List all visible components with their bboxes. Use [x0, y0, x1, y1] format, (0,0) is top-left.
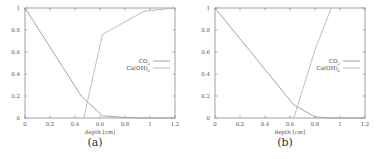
x-tick-label: 0.8	[311, 121, 320, 127]
x-tick-label: 0.6	[286, 121, 295, 127]
y-tick-label: 0	[207, 115, 211, 121]
chart-panel-b: 00.20.40.60.8100.20.40.60.811.2depth [cm…	[190, 0, 380, 159]
x-tick-label: 0.6	[96, 121, 105, 127]
y-tick-label: 0.6	[11, 49, 20, 55]
y-tick-label: 0.8	[201, 27, 210, 33]
y-tick-label: 1	[207, 5, 211, 11]
caption-b: (b)	[190, 136, 380, 149]
y-tick-label: 0.4	[11, 71, 20, 77]
legend-label: Ca(OH)2	[316, 65, 340, 73]
y-tick-label: 0.2	[201, 93, 210, 99]
caption-a: (a)	[0, 136, 190, 149]
x-axis-label: depth [cm]	[275, 129, 305, 136]
chart-panel-a: 00.20.40.60.8100.20.40.60.811.2depth [cm…	[0, 0, 190, 159]
series-line-co2	[25, 8, 175, 118]
y-tick-label: 0	[17, 115, 21, 121]
legend-label: Ca(OH)2	[126, 65, 150, 73]
x-tick-label: 0.2	[236, 121, 245, 127]
y-tick-label: 0.6	[201, 49, 210, 55]
x-tick-label: 1.2	[361, 121, 370, 127]
x-tick-label: 0.8	[121, 121, 130, 127]
series-line-co2	[215, 8, 365, 118]
x-axis-label: depth [cm]	[85, 129, 115, 136]
series-line-caoh2	[294, 8, 332, 118]
x-tick-label: 1.2	[171, 121, 180, 127]
x-tick-label: 0.2	[46, 121, 55, 127]
y-tick-label: 0.8	[11, 27, 20, 33]
y-tick-label: 0.2	[11, 93, 20, 99]
plot-frame	[25, 8, 175, 118]
x-tick-label: 0.4	[71, 121, 80, 127]
x-tick-label: 1	[148, 121, 152, 127]
x-tick-label: 0.4	[261, 121, 270, 127]
y-tick-label: 1	[17, 5, 21, 11]
y-tick-label: 0.4	[201, 71, 210, 77]
series-line-caoh2	[84, 8, 175, 118]
x-tick-label: 1	[338, 121, 342, 127]
x-tick-label: 0	[23, 121, 27, 127]
x-tick-label: 0	[213, 121, 217, 127]
plot-frame	[215, 8, 365, 118]
